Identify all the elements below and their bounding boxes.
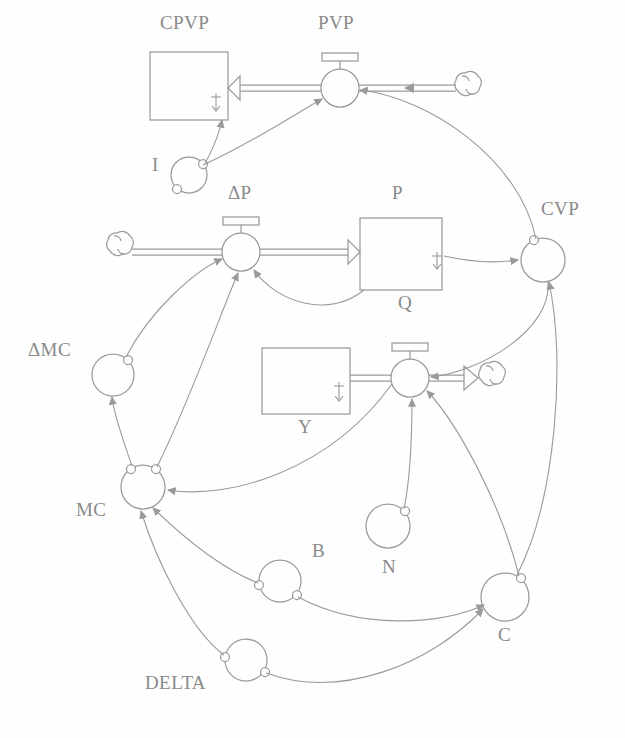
link-P-to-DP (254, 270, 364, 305)
stock-cpvp[interactable] (150, 52, 228, 120)
label-aux-delta: DELTA (145, 672, 206, 694)
flow-valve-pvp[interactable] (321, 53, 359, 107)
diagram-svg (0, 0, 625, 738)
link-C-to-CVP (517, 282, 557, 575)
label-stock-cpvp: CPVP (160, 12, 209, 34)
diagram-canvas: CPVP P Y PVP ΔP Q I CVP ΔMC MC B N C DEL… (0, 0, 625, 738)
stock-y[interactable] (262, 348, 350, 414)
label-aux-n: N (382, 556, 396, 578)
label-stock-p: P (392, 182, 403, 204)
link-N-to-Q (404, 399, 412, 509)
aux-mc[interactable] (121, 465, 165, 510)
level-indicator-p (432, 252, 442, 269)
link-DMC-to-DP (126, 259, 222, 357)
pipe-cloud-to-pvp (359, 83, 456, 93)
link-P-to-CVP (444, 256, 518, 262)
link-DELTA-to-MC (141, 511, 224, 655)
link-MC-to-DMC (112, 397, 132, 466)
level-indicator-cpvp (211, 93, 221, 111)
cloud-pvp-source (455, 71, 482, 95)
link-B-to-C (298, 597, 484, 621)
label-flow-q: Q (398, 292, 412, 314)
aux-c[interactable] (481, 573, 529, 621)
stock-p[interactable] (360, 218, 442, 290)
pipe-q-to-cloud (429, 366, 478, 390)
flow-valve-q[interactable] (391, 343, 429, 397)
link-C-to-Q (427, 391, 519, 576)
label-aux-c: C (498, 624, 511, 646)
level-indicator-y (334, 382, 344, 401)
label-aux-mc: MC (76, 499, 106, 521)
pipe-y-to-q (350, 375, 392, 381)
label-aux-b: B (312, 540, 325, 562)
aux-n[interactable] (366, 504, 410, 548)
pipe-pvp-to-cpvp (228, 76, 321, 100)
link-Q-to-MC (168, 384, 392, 492)
label-flow-dp: ΔP (228, 182, 252, 204)
flow-valve-dp[interactable] (222, 217, 260, 271)
pipe-cloud-to-dp (132, 249, 222, 255)
label-aux-cvp: CVP (541, 198, 579, 220)
link-MC-to-DP (157, 273, 238, 467)
aux-b[interactable] (255, 560, 302, 602)
label-aux-i: I (152, 154, 159, 176)
label-flow-pvp: PVP (318, 12, 354, 34)
link-CVP-to-PVP (360, 90, 536, 239)
aux-delta[interactable] (221, 639, 270, 681)
pipe-dp-to-p (260, 240, 360, 264)
aux-dmc[interactable] (92, 354, 134, 396)
cloud-dp-source (107, 231, 134, 255)
aux-cvp[interactable] (521, 236, 565, 283)
cloud-q-sink (479, 361, 506, 385)
link-CPVP-to-I (205, 120, 222, 163)
aux-i[interactable] (171, 157, 208, 194)
link-B-to-MC (153, 508, 258, 583)
label-aux-dmc: ΔMC (28, 339, 71, 361)
label-stock-y: Y (298, 416, 312, 438)
link-I-to-PVP (203, 99, 322, 165)
